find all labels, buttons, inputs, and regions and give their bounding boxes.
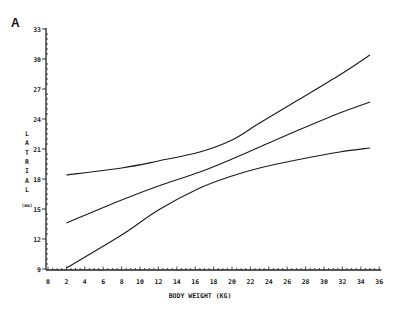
y-axis-unit: (mm) [22, 203, 33, 208]
x-tick-label: 0 [46, 278, 50, 286]
y-tick-label: 9 [37, 266, 41, 274]
x-tick-label: 28 [302, 278, 310, 286]
x-tick-label: 12 [154, 278, 162, 286]
x-tick-label: 26 [283, 278, 291, 286]
y-axis-label-letter: R [25, 158, 29, 166]
x-tick-label: 10 [136, 278, 144, 286]
y-tick-label: 18 [33, 176, 41, 184]
x-tick-label: 14 [173, 278, 181, 286]
y-axis-label-letter: A [25, 139, 29, 147]
y-tick-label: 12 [33, 236, 41, 244]
x-tick-label: 8 [120, 278, 124, 286]
x-tick-label: 30 [320, 278, 328, 286]
y-tick-label: 30 [33, 56, 41, 64]
y-axis-label-letter: L [25, 186, 29, 194]
x-tick-label: 18 [210, 278, 218, 286]
series-line-2 [66, 102, 370, 223]
y-tick-label: 15 [33, 206, 41, 214]
y-tick-label: 27 [33, 86, 41, 94]
y-axis-label-letter: T [25, 149, 29, 157]
x-tick-label: 22 [246, 278, 254, 286]
x-tick-label: 20 [228, 278, 236, 286]
x-tick-label: 24 [265, 278, 273, 286]
x-axis-label: BODY WEIGHT (KG) [169, 292, 232, 300]
x-tick-label: 4 [83, 278, 87, 286]
x-tick-label: 32 [338, 278, 346, 286]
x-tick-label: 2 [64, 278, 68, 286]
y-axis-label-letter: I [25, 167, 29, 175]
y-tick-label: 24 [33, 116, 41, 124]
y-tick-label: 33 [33, 26, 41, 34]
series-line-1 [66, 55, 370, 175]
x-tick-label: 16 [191, 278, 199, 286]
series-lines [66, 55, 370, 268]
x-tick-label: 36 [375, 278, 383, 286]
x-tick-label: 6 [101, 278, 105, 286]
line-chart: 9121518212427303302468101214161820222426… [0, 0, 401, 310]
y-axis-label-letter: A [25, 177, 29, 185]
axis-labels: BODY WEIGHT (KG)LATRIAL(mm) [22, 130, 232, 300]
series-line-3 [66, 148, 370, 268]
x-tick-label: 34 [357, 278, 365, 286]
y-tick-label: 21 [33, 146, 41, 154]
y-axis-label-letter: L [25, 130, 29, 138]
axes: 9121518212427303302468101214161820222426… [33, 26, 383, 287]
